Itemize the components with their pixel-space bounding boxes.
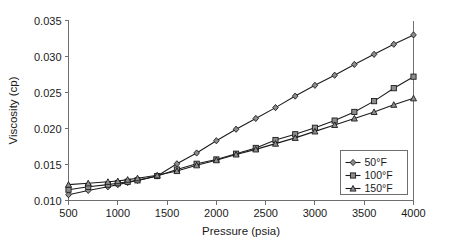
data-point-diamond-marker xyxy=(371,51,377,57)
data-point-square-marker xyxy=(352,109,357,114)
x-tick-label: 2000 xyxy=(204,207,228,219)
data-point-diamond-marker xyxy=(253,115,259,121)
data-point-square-marker xyxy=(391,86,396,91)
x-tick-label: 1000 xyxy=(106,207,130,219)
legend-item-label: 100°F xyxy=(365,169,393,181)
x-tick-label: 3500 xyxy=(352,207,376,219)
x-tick-label: 1500 xyxy=(155,207,179,219)
data-point-square-marker xyxy=(350,173,355,178)
data-point-diamond-marker xyxy=(174,161,180,167)
viscosity-pressure-chart: 0.0100.0150.0200.0250.0300.035 500100015… xyxy=(0,0,460,249)
data-point-diamond-marker xyxy=(214,138,220,144)
chart-legend: 50°F100°F150°F xyxy=(341,151,408,195)
x-axis-title: Pressure (psia) xyxy=(202,225,280,237)
x-axis-ticks: 5001000150020002500300035004000 xyxy=(59,201,425,219)
data-point-square-marker xyxy=(66,187,71,192)
data-point-diamond-marker xyxy=(352,61,358,67)
x-tick-label: 2500 xyxy=(253,207,277,219)
data-point-square-marker xyxy=(371,99,376,104)
x-tick-label: 4000 xyxy=(401,207,425,219)
x-tick-label: 500 xyxy=(59,207,77,219)
chart-figure: 0.0100.0150.0200.0250.0300.035 500100015… xyxy=(0,0,460,249)
y-tick-label: 0.020 xyxy=(34,123,62,135)
data-point-diamond-marker xyxy=(233,126,239,132)
data-point-diamond-marker xyxy=(411,32,417,38)
data-point-diamond-marker xyxy=(292,93,298,99)
legend-item-label: 50°F xyxy=(365,156,387,168)
y-tick-label: 0.025 xyxy=(34,87,62,99)
y-tick-label: 0.035 xyxy=(34,15,62,27)
data-point-diamond-marker xyxy=(332,72,338,78)
y-tick-label: 0.010 xyxy=(34,195,62,207)
y-axis-title: Viscosity (cp) xyxy=(7,76,19,144)
y-tick-label: 0.015 xyxy=(34,159,62,171)
x-tick-label: 3000 xyxy=(303,207,327,219)
data-point-diamond-marker xyxy=(194,150,200,156)
y-tick-label: 0.030 xyxy=(34,51,62,63)
data-point-diamond-marker xyxy=(273,105,279,111)
data-point-triangle-marker xyxy=(411,95,417,101)
data-point-diamond-marker xyxy=(312,82,318,88)
y-axis-ticks: 0.0100.0150.0200.0250.0300.035 xyxy=(34,15,69,207)
data-point-square-marker xyxy=(411,74,416,79)
legend-item-label: 150°F xyxy=(365,182,393,194)
data-point-diamond-marker xyxy=(391,41,397,47)
